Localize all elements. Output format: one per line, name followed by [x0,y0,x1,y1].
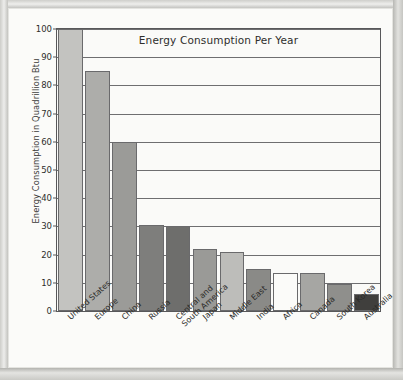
y-tick-label: 60 [41,137,52,147]
y-tick-label: 0 [47,306,52,316]
frame-bevel-left [0,0,8,380]
y-tick-label: 50 [41,165,52,175]
y-tick-label: 40 [41,193,52,203]
bar-chart: Energy Consumption in Quadrillion Btu En… [8,8,393,368]
y-tick-label: 80 [41,80,52,90]
y-tick-label: 10 [41,278,52,288]
frame-bevel-bottom [0,368,403,380]
bar[interactable] [112,142,137,311]
window-frame: Energy Consumption in Quadrillion Btu En… [0,0,403,380]
y-tick-label: 100 [36,24,52,34]
y-tick-label: 70 [41,109,52,119]
bar[interactable] [85,71,110,311]
bar[interactable] [166,226,191,311]
page-surface: Energy Consumption in Quadrillion Btu En… [8,8,393,368]
frame-bevel-right [393,0,403,380]
y-tick-label: 20 [41,250,52,260]
y-axis-title: Energy Consumption in Quadrillion Btu [31,41,41,241]
plot-area: Energy Consumption Per Year 010203040506… [56,28,381,312]
y-tick-label: 90 [41,52,52,62]
y-tick-label: 30 [41,221,52,231]
bars-container [57,29,380,311]
bar[interactable] [139,225,164,311]
bar[interactable] [58,29,83,311]
